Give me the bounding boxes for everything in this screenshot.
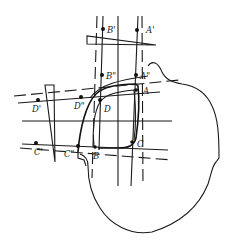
label-b-prime: B' bbox=[106, 25, 116, 35]
top-wedge bbox=[87, 36, 156, 45]
nose-bridge bbox=[78, 152, 86, 166]
vertical-line-a-dash-right bbox=[142, 16, 143, 186]
label-c-prime: C' bbox=[34, 147, 43, 157]
point-a bbox=[134, 88, 138, 92]
point-c-dprime bbox=[76, 144, 80, 148]
label-c-dprime: C" bbox=[64, 149, 75, 159]
label-b: B bbox=[92, 151, 99, 161]
point-b-dprime bbox=[100, 73, 104, 77]
point-c bbox=[130, 140, 134, 144]
label-b-dprime: B" bbox=[105, 71, 116, 81]
point-c-prime bbox=[34, 141, 38, 145]
label-a: A bbox=[142, 86, 149, 96]
label-a-dprime: A" bbox=[139, 71, 150, 81]
point-d-prime bbox=[36, 98, 40, 102]
point-d-dprime bbox=[79, 95, 83, 99]
label-c: C bbox=[137, 139, 144, 149]
label-a-prime: A' bbox=[145, 25, 154, 35]
point-a-dprime bbox=[134, 73, 138, 77]
vertical-line-b bbox=[99, 16, 103, 150]
projection-diagram: B' A' B" A" A D' D" D C' C" B C bbox=[0, 0, 234, 240]
point-b bbox=[93, 145, 97, 149]
point-b-prime bbox=[101, 27, 105, 31]
point-d bbox=[98, 98, 102, 102]
point-a-prime bbox=[135, 28, 139, 32]
label-d: D bbox=[103, 104, 111, 114]
label-d-dprime: D" bbox=[73, 101, 85, 111]
label-d-prime: D' bbox=[31, 104, 41, 114]
